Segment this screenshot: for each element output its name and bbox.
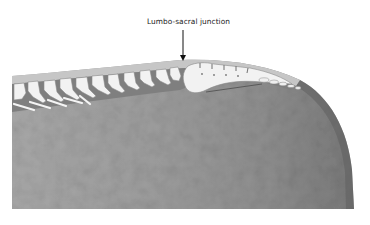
horse-back-drawing (0, 0, 370, 225)
spine-illustration: Lumbo-sacral junction (0, 0, 370, 225)
annotation-label: Lumbo-sacral junction (147, 17, 231, 26)
arrow-down-icon (180, 30, 186, 61)
